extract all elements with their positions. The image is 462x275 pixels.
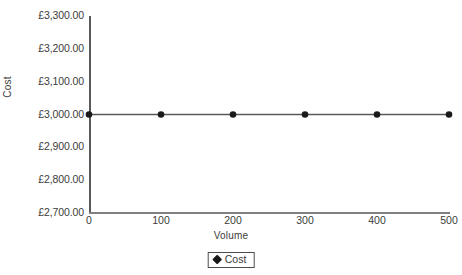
series-cost: [89, 16, 449, 213]
x-tick-label: 100: [141, 214, 181, 226]
y-tick-label: £2,900.00: [0, 140, 84, 152]
y-tick-label: £3,000.00: [0, 108, 84, 120]
x-tick-label: 400: [357, 214, 397, 226]
data-point-marker: [86, 111, 93, 118]
x-tick-label: 300: [285, 214, 325, 226]
plot-area: [89, 16, 449, 213]
y-tick-label: £3,100.00: [0, 75, 84, 87]
x-axis-tick-labels: 0100200300400500: [0, 214, 462, 230]
x-tick-label: 200: [213, 214, 253, 226]
x-tick-label: 0: [69, 214, 109, 226]
data-point-marker: [302, 111, 309, 118]
x-tick-label: 500: [429, 214, 462, 226]
y-tick-label: £2,800.00: [0, 173, 84, 185]
diamond-marker-icon: [212, 254, 222, 264]
data-point-marker: [446, 111, 453, 118]
data-point-marker: [374, 111, 381, 118]
line-chart: Cost £3,300.00£3,200.00£3,100.00£3,000.0…: [0, 0, 462, 275]
legend-label-cost: Cost: [225, 254, 247, 265]
y-tick-label: £3,200.00: [0, 42, 84, 54]
y-tick-label: £3,300.00: [0, 9, 84, 21]
x-axis-title: Volume: [0, 230, 462, 241]
chart-legend[interactable]: Cost: [208, 252, 255, 268]
data-point-marker: [158, 111, 165, 118]
data-point-marker: [230, 111, 237, 118]
